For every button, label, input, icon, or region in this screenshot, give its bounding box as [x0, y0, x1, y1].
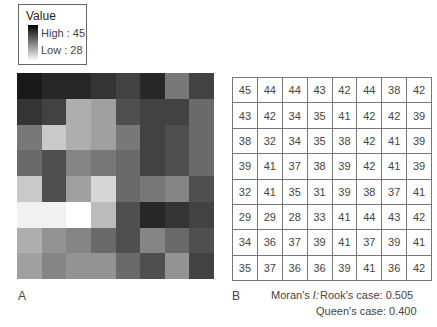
raster-cell — [140, 253, 165, 279]
raster-cell — [116, 73, 141, 99]
table-cell: 37 — [258, 256, 283, 281]
table-cell: 34 — [233, 230, 258, 255]
table-cell: 39 — [233, 154, 258, 179]
raster-cell — [66, 150, 91, 176]
color-ramp-icon — [28, 25, 38, 61]
raster-cell — [91, 150, 116, 176]
raster-cell — [42, 228, 67, 254]
raster-cell — [42, 125, 67, 151]
table-cell: 45 — [233, 78, 258, 103]
raster-cell — [42, 253, 67, 279]
raster-cell — [116, 150, 141, 176]
legend: Value High : 45 Low : 28 — [18, 4, 87, 65]
table-cell: 43 — [233, 103, 258, 128]
table-cell: 38 — [333, 129, 358, 154]
table-cell: 36 — [382, 256, 407, 281]
raster-cell — [116, 125, 141, 151]
raster-cell — [140, 202, 165, 228]
raster-cell — [116, 202, 141, 228]
raster-cell — [17, 99, 42, 125]
table-cell: 39 — [333, 180, 358, 205]
raster-cell — [91, 125, 116, 151]
table-cell: 42 — [333, 78, 358, 103]
table-cell: 41 — [407, 230, 432, 255]
raster-cell — [165, 99, 190, 125]
table-cell: 36 — [308, 256, 333, 281]
table-cell: 38 — [308, 154, 333, 179]
table-cell: 41 — [357, 256, 382, 281]
table-cell: 29 — [258, 205, 283, 230]
raster-cell — [140, 125, 165, 151]
table-cell: 42 — [407, 78, 432, 103]
table-cell: 38 — [233, 129, 258, 154]
table-cell: 41 — [382, 154, 407, 179]
table-cell: 42 — [357, 129, 382, 154]
value-table: 4544444342443842434234354142423938323435… — [232, 77, 432, 281]
raster-cell — [42, 99, 67, 125]
legend-title: Value — [26, 9, 56, 23]
raster-cell — [91, 202, 116, 228]
table-cell: 41 — [333, 103, 358, 128]
raster-cell — [165, 228, 190, 254]
raster-cell — [17, 176, 42, 202]
raster-cell — [66, 228, 91, 254]
raster-cell — [165, 176, 190, 202]
table-cell: 29 — [233, 205, 258, 230]
raster-cell — [17, 125, 42, 151]
table-cell: 28 — [283, 205, 308, 230]
table-cell: 37 — [357, 230, 382, 255]
raster-cell — [189, 150, 214, 176]
table-cell: 41 — [333, 205, 358, 230]
raster-cell — [189, 99, 214, 125]
raster-cell — [17, 202, 42, 228]
table-cell: 42 — [407, 256, 432, 281]
table-cell: 32 — [233, 180, 258, 205]
raster-cell — [140, 176, 165, 202]
table-cell: 38 — [382, 78, 407, 103]
table-cell: 32 — [258, 129, 283, 154]
legend-high-label: High : 45 — [41, 27, 85, 39]
table-cell: 44 — [283, 78, 308, 103]
table-cell: 35 — [308, 129, 333, 154]
raster-cell — [42, 176, 67, 202]
raster-cell — [165, 253, 190, 279]
table-cell: 36 — [258, 230, 283, 255]
morans-symbol: I: — [313, 289, 319, 301]
table-cell: 37 — [283, 154, 308, 179]
table-cell: 34 — [283, 103, 308, 128]
table-cell: 34 — [283, 129, 308, 154]
table-cell: 39 — [308, 230, 333, 255]
table-cell: 38 — [357, 180, 382, 205]
table-cell: 44 — [357, 205, 382, 230]
table-cell: 43 — [382, 205, 407, 230]
morans-label-text: Moran's — [271, 289, 310, 301]
table-cell: 41 — [258, 180, 283, 205]
morans-i-label: Moran's I: — [271, 289, 319, 301]
table-cell: 42 — [407, 205, 432, 230]
raster-cell — [140, 150, 165, 176]
raster-cell — [66, 99, 91, 125]
table-cell: 41 — [258, 154, 283, 179]
raster-cell — [66, 73, 91, 99]
panel-label-b: B — [232, 289, 240, 303]
table-cell: 35 — [233, 256, 258, 281]
table-cell: 41 — [407, 180, 432, 205]
table-cell: 39 — [407, 129, 432, 154]
raster-cell — [116, 176, 141, 202]
table-cell: 42 — [382, 103, 407, 128]
table-cell: 35 — [283, 180, 308, 205]
table-cell: 33 — [308, 205, 333, 230]
table-cell: 35 — [308, 103, 333, 128]
table-cell: 42 — [357, 154, 382, 179]
panel-label-a: A — [18, 289, 26, 303]
raster-cell — [66, 202, 91, 228]
table-cell: 39 — [382, 230, 407, 255]
raster-cell — [42, 73, 67, 99]
raster-cell — [189, 253, 214, 279]
raster-cell — [189, 228, 214, 254]
raster-cell — [165, 202, 190, 228]
raster-cell — [116, 99, 141, 125]
raster-cell — [165, 150, 190, 176]
raster-cell — [17, 150, 42, 176]
raster-cell — [140, 228, 165, 254]
